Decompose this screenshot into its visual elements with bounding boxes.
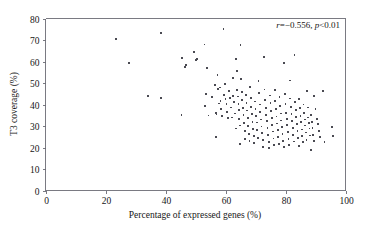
correlation-annotation: r=−0.556, p<0.01 [276,20,340,30]
scatter-point [303,112,305,114]
scatter-point [332,135,334,137]
scatter-point [269,95,271,97]
scatter-point [279,96,281,98]
scatter-point [240,78,242,80]
y-tick-label: 0 [35,187,40,197]
scatter-point [263,56,265,58]
scatter-point [286,118,288,120]
y-tick-label: 10 [30,165,40,175]
y-tick-label: 60 [30,58,40,68]
chart-canvas: 01020304050607080 020406080100 r=−0.556,… [0,0,374,237]
scatter-point [307,107,309,109]
x-axis-tick-labels: 020406080100 [44,196,354,206]
scatter-point [304,119,306,121]
scatter-point [238,109,240,111]
scatter-point [238,103,240,105]
scatter-point [309,135,311,137]
y-tick-label: 40 [30,101,40,111]
scatter-point [217,74,219,76]
scatter-point [293,141,295,143]
scatter-point [242,107,244,109]
scatter-point [296,123,298,125]
scatter-point [247,125,249,127]
x-tick-label: 0 [44,196,49,206]
scatter-point [292,127,294,129]
scatter-point [239,143,241,145]
x-tick-label: 80 [282,196,292,206]
scatter-point [224,83,226,85]
scatter-point [193,51,195,53]
x-tick-label: 40 [162,196,172,206]
scatter-point [249,86,251,88]
scatter-point [295,109,297,111]
scatter-point [306,90,308,92]
x-tick-label: 100 [339,196,354,206]
x-axis-title: Percentage of expressed genes (%) [129,210,261,221]
scatter-point [128,62,130,64]
scatter-point [274,100,276,102]
scatter-point [246,102,248,104]
scatter-point [181,114,183,116]
scatter-point [268,141,270,143]
scatter-point [287,131,289,133]
scatter-point [241,91,243,93]
scatter-point [297,137,299,139]
scatter-point [225,98,227,100]
scatter-point [253,142,255,144]
scatter-point [317,123,319,125]
scatter-point [278,143,280,145]
scatter-point [252,121,254,123]
scatter-point [226,111,228,113]
scatter-point [241,99,243,101]
scatter-point [238,118,240,120]
scatter-point [250,106,252,108]
scatter-point [291,113,293,115]
scatter-point [282,140,284,142]
scatter-point [223,94,225,96]
scatter-point [236,70,238,72]
scatter-point [196,58,198,60]
scatter-point [218,103,220,105]
scatter-point [271,117,273,119]
scatter-point [288,138,290,140]
scatter-point [243,114,245,116]
scatter-point [273,138,275,140]
x-tick-label: 20 [102,196,112,206]
scatter-point [249,140,251,142]
scatter-point [277,136,279,138]
scatter-point [286,124,288,126]
scatter-point [257,137,259,139]
scatter-point [261,132,263,134]
scatter-point [268,147,270,149]
scatter-point [235,128,237,130]
scatter-point [232,95,234,97]
scatter-point [115,38,117,40]
scatter-point [234,113,236,115]
scatter-point [243,122,245,124]
scatter-point [267,134,269,136]
scatter-point [245,94,247,96]
scatter-point [208,115,210,117]
scatter-point [322,90,324,92]
scatter-point [298,98,300,100]
scatter-point [214,84,216,86]
scatter-point [219,87,221,89]
scatter-point [298,145,300,147]
scatter-point [288,144,290,146]
scatter-point [247,117,249,119]
scatter-point [205,93,207,95]
y-axis-title: T3 coverage (%) [9,72,20,136]
y-tick-label: 30 [30,122,40,132]
scatter-point [303,104,305,106]
scatter-point [259,111,261,113]
scatter-point [315,108,317,110]
scatter-point [265,114,267,116]
scatter-point [300,121,302,123]
scatter-point [254,101,256,103]
scatter-plot-figure: 01020304050607080 020406080100 r=−0.556,… [0,0,374,237]
scatter-point [305,132,307,134]
scatter-point [237,96,239,98]
scatter-point [211,96,213,98]
scatter-point [282,133,284,135]
scatter-point [185,64,187,66]
